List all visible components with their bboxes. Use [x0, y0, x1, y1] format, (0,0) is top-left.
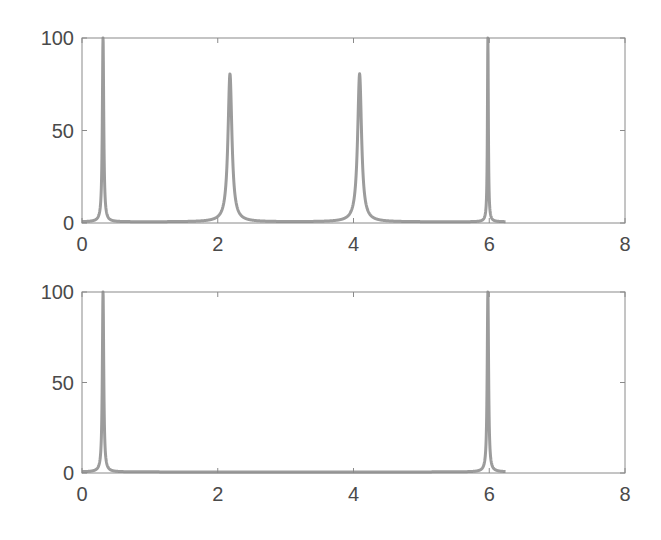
spectrum-line — [82, 292, 506, 472]
y-tick-label: 0 — [63, 462, 74, 484]
x-tick-label: 4 — [348, 483, 359, 505]
y-tick-label: 50 — [52, 120, 74, 142]
y-tick-label: 0 — [63, 212, 74, 234]
x-tick-label: 0 — [76, 233, 87, 255]
y-tick-label: 100 — [41, 281, 74, 303]
x-tick-label: 8 — [619, 483, 630, 505]
x-tick-label: 8 — [619, 233, 630, 255]
x-tick-label: 0 — [76, 483, 87, 505]
y-tick-label: 100 — [41, 27, 74, 49]
x-tick-label: 4 — [348, 233, 359, 255]
y-tick-label: 50 — [52, 372, 74, 394]
x-tick-label: 2 — [212, 233, 223, 255]
top-subplot: 02468050100 — [41, 27, 631, 255]
axes-box — [82, 292, 625, 473]
x-tick-label: 6 — [484, 233, 495, 255]
x-tick-label: 2 — [212, 483, 223, 505]
spectrum-line — [82, 38, 506, 222]
x-tick-label: 6 — [484, 483, 495, 505]
figure: 02468050100 02468050100 — [0, 0, 661, 540]
bottom-subplot: 02468050100 — [41, 281, 631, 505]
